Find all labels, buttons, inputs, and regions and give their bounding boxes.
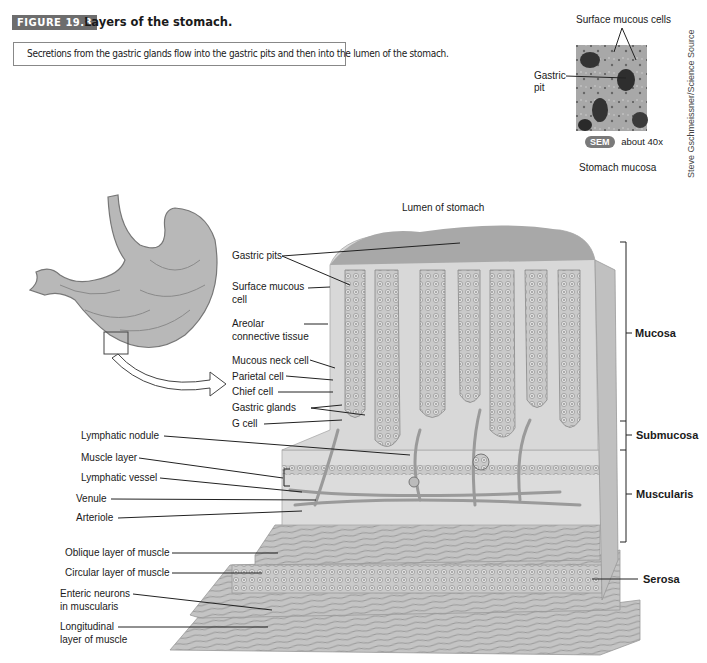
magnification-label: about 40x	[621, 136, 663, 147]
label-muscle-layer: Muscle layer	[81, 452, 137, 464]
label-g-cell: G cell	[232, 418, 258, 430]
label-surface-mucous-cell: Surface mucous	[232, 281, 304, 293]
label-arteriole: Arteriole	[76, 512, 113, 524]
sem-micrograph	[566, 28, 648, 131]
label-gastric-glands: Gastric glands	[232, 402, 296, 414]
label-areolar: Areolar	[232, 318, 264, 330]
magnify-arrow-icon	[112, 354, 226, 396]
label-oblique-muscle: Oblique layer of muscle	[65, 547, 170, 559]
label-gastric-pit-2: pit	[534, 82, 545, 94]
label-parietal-cell: Parietal cell	[232, 371, 284, 383]
label-lymphatic-nodule: Lymphatic nodule	[81, 430, 159, 442]
label-venule: Venule	[76, 493, 107, 505]
label-surface-mucous-cell-2: cell	[232, 294, 247, 306]
label-mucosa: Mucosa	[635, 327, 676, 339]
inset-caption: Stomach mucosa	[579, 162, 656, 174]
sem-scale: SEM about 40x	[585, 136, 663, 147]
label-longitudinal-muscle: Longitudinal	[60, 621, 114, 633]
label-muscularis: Muscularis	[636, 488, 693, 500]
label-areolar-2: connective tissue	[232, 331, 309, 343]
label-lumen: Lumen of stomach	[402, 202, 484, 214]
label-gastric-pits: Gastric pits	[232, 250, 282, 262]
label-serosa: Serosa	[643, 573, 680, 585]
label-enteric-neurons: Enteric neurons	[60, 588, 130, 600]
whole-stomach-drawing	[30, 195, 226, 396]
label-submucosa: Submucosa	[636, 429, 698, 441]
label-surface-mucous-cells: Surface mucous cells	[576, 14, 671, 26]
label-circular-muscle: Circular layer of muscle	[65, 567, 169, 579]
label-enteric-neurons-2: in muscularis	[60, 601, 118, 613]
label-mucous-neck-cell: Mucous neck cell	[232, 355, 309, 367]
sem-badge: SEM	[585, 136, 615, 148]
label-longitudinal-muscle-2: layer of muscle	[60, 634, 127, 646]
stomach-illustration	[0, 0, 707, 663]
photo-credit: Steve Gschmeissner/Science Source	[686, 29, 696, 178]
label-lymphatic-vessel: Lymphatic vessel	[81, 472, 157, 484]
label-gastric-pit-1: Gastric	[534, 70, 566, 82]
label-chief-cell: Chief cell	[232, 386, 273, 398]
